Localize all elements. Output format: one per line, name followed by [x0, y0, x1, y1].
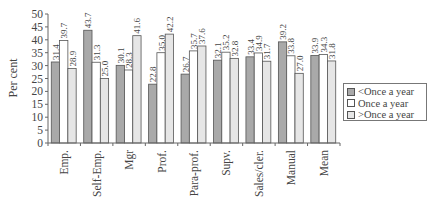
- y-tick-label: 5: [37, 124, 43, 136]
- y-tick-label: 25: [32, 73, 44, 85]
- x-tick-label: Manual: [285, 150, 297, 185]
- bar-value-label: 31.3: [92, 44, 102, 60]
- bar-value-label: 39.2: [278, 24, 288, 40]
- bar: [222, 52, 230, 143]
- bar: [165, 34, 173, 143]
- bar: [319, 55, 327, 143]
- bar: [189, 51, 197, 143]
- x-tick-label: Mean: [318, 150, 330, 176]
- bar-value-label: 33.8: [286, 38, 296, 54]
- legend-swatch-icon: [347, 99, 355, 107]
- y-tick-label: 20: [32, 85, 44, 97]
- y-tick-label: 50: [32, 8, 44, 20]
- x-tick-label: Prof.: [156, 150, 168, 173]
- y-tick-label: 35: [32, 47, 44, 59]
- bar-value-label: 32.8: [230, 40, 240, 56]
- legend-label: Once a year: [358, 98, 408, 109]
- bar: [198, 46, 206, 143]
- y-tick-label: 40: [32, 34, 44, 46]
- bar-value-label: 39.7: [59, 22, 69, 38]
- legend-label: <Once a year: [358, 86, 414, 97]
- legend-label: >Once a year: [358, 109, 414, 120]
- bar: [230, 58, 238, 143]
- x-tick-label: Emp.: [58, 150, 71, 175]
- bars: 31.439.728.943.731.325.030.128.341.622.8…: [51, 12, 337, 143]
- x-tick-label: Para-prof.: [188, 150, 201, 196]
- bar-value-label: 43.7: [83, 12, 93, 28]
- bar: [213, 60, 221, 143]
- bar: [116, 65, 124, 143]
- y-axis: 05101520253035404550: [32, 8, 49, 149]
- bar: [327, 61, 335, 143]
- legend-item-once: Once a year: [347, 98, 423, 110]
- bar: [149, 84, 157, 143]
- x-tick-label: Self-Emp.: [91, 150, 104, 197]
- bar-value-label: 42.2: [165, 16, 175, 32]
- bar-value-label: 28.9: [68, 50, 78, 66]
- bar-value-label: 25.0: [100, 60, 110, 76]
- x-tick-label: Mgr: [123, 150, 136, 170]
- bar: [246, 57, 254, 143]
- legend: <Once a year Once a year >Once a year: [343, 83, 427, 121]
- bar: [295, 73, 303, 143]
- bar: [51, 62, 59, 143]
- bar: [181, 74, 189, 143]
- y-tick-label: 45: [32, 21, 44, 33]
- bar: [263, 61, 271, 143]
- bar: [133, 36, 141, 143]
- y-tick-label: 15: [32, 98, 44, 110]
- legend-item-more-than-once: >Once a year: [347, 109, 423, 121]
- bar-value-label: 37.6: [197, 28, 207, 44]
- x-tick-label: Sales/cler.: [253, 150, 265, 197]
- x-axis: Emp.Self-Emp.MgrProf.Para-prof.Supv.Sale…: [48, 143, 340, 197]
- bar: [124, 70, 132, 143]
- y-tick-label: 0: [37, 137, 43, 149]
- legend-swatch-icon: [347, 88, 355, 96]
- legend-item-less-than-once: <Once a year: [347, 86, 423, 98]
- x-tick-label: Supv.: [220, 150, 233, 176]
- bar-value-label: 41.6: [132, 17, 142, 33]
- y-axis-label: Per cent: [6, 58, 20, 98]
- bar: [254, 53, 262, 143]
- y-tick-label: 10: [32, 111, 44, 123]
- bar-value-label: 31.7: [262, 43, 272, 59]
- bar: [157, 53, 165, 143]
- bar: [68, 68, 76, 143]
- bar: [278, 42, 286, 143]
- y-tick-label: 30: [32, 60, 44, 72]
- bar-value-label: 27.0: [295, 55, 305, 71]
- legend-swatch-icon: [347, 111, 355, 119]
- bar-value-label: 31.8: [327, 43, 337, 59]
- bar: [100, 79, 108, 144]
- bar: [311, 56, 319, 143]
